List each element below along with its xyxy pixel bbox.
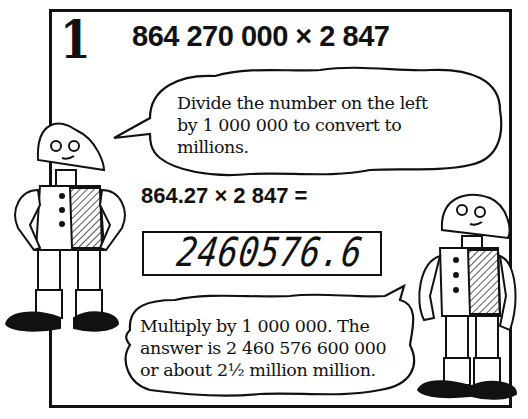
bubble-bottom-line: answer is 2 460 576 600 000 bbox=[140, 337, 400, 359]
speech-bubble-bottom-text: Multiply by 1 000 000. The answer is 2 4… bbox=[140, 315, 400, 381]
bubble-top-line: millions. bbox=[177, 136, 477, 158]
speech-bubble-top-text: Divide the number on the left by 1 000 0… bbox=[177, 92, 477, 158]
bubble-bottom-line: Multiply by 1 000 000. The bbox=[140, 315, 400, 337]
equation: 864.27 × 2 847 = bbox=[141, 183, 307, 209]
calculator-display: 2460576.6 bbox=[142, 231, 382, 276]
robot-right-icon bbox=[418, 195, 516, 399]
bubble-top-line: by 1 000 000 to convert to bbox=[177, 114, 477, 136]
robot-left-icon bbox=[6, 124, 125, 331]
bubble-bottom-line: or about 2½ million million. bbox=[140, 359, 400, 381]
bubble-top-line: Divide the number on the left bbox=[177, 92, 477, 114]
calculator-display-value: 2460576.6 bbox=[174, 229, 366, 275]
